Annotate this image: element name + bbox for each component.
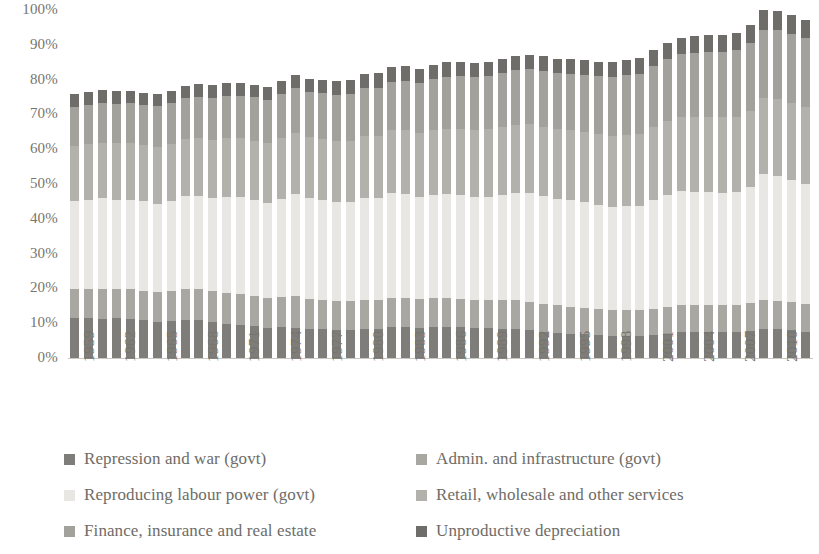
bar-segment (732, 50, 741, 116)
bar-1960 (84, 92, 93, 358)
bar-segment (635, 206, 644, 310)
bar-segment (539, 71, 548, 127)
bar-1964 (139, 93, 148, 358)
bar-1971 (236, 83, 245, 358)
bar-segment (456, 299, 465, 328)
bar-segment (360, 300, 369, 329)
x-axis-tick: 2010 (784, 330, 801, 362)
legend-swatch-icon (64, 490, 75, 501)
bar-segment (139, 320, 148, 358)
bar-segment (181, 196, 190, 289)
bar-segment (594, 309, 603, 335)
bar-1997 (594, 62, 603, 358)
bar-segment (704, 117, 713, 192)
bar-segment (250, 141, 259, 200)
y-axis-tick: 100% (22, 1, 58, 18)
bar-segment (70, 289, 79, 318)
bar-1981 (374, 73, 383, 358)
legend-item[interactable]: Reproducing labour power (govt) (64, 480, 315, 510)
y-axis-tick: 60% (30, 140, 58, 157)
bar-segment (84, 200, 93, 289)
bar-segment (525, 302, 534, 331)
bar-segment (484, 129, 493, 196)
bar-segment (387, 130, 396, 193)
x-axis-tick: 1998 (618, 330, 635, 362)
bar-2012 (801, 20, 810, 358)
bar-segment (84, 144, 93, 200)
bar-segment (346, 202, 355, 301)
bar-1975 (291, 75, 300, 358)
bar-segment (415, 197, 424, 299)
bar-segment (70, 201, 79, 289)
bar-segment (580, 60, 589, 75)
bar-segment (690, 332, 699, 358)
bar-segment (112, 91, 121, 104)
bar-segment (153, 322, 162, 358)
bar-segment (194, 196, 203, 289)
bar-segment (277, 81, 286, 94)
bar-segment (787, 34, 796, 103)
bar-segment (553, 73, 562, 129)
bar-segment (539, 304, 548, 332)
legend-item[interactable]: Repression and war (govt) (64, 444, 266, 474)
bar-segment (181, 320, 190, 358)
bar-segment (374, 136, 383, 198)
x-axis-tick: 2004 (701, 330, 718, 362)
legend-item[interactable]: Retail, wholesale and other services (416, 480, 684, 510)
bar-segment (580, 132, 589, 202)
bar-segment (580, 75, 589, 132)
bar-1974 (277, 81, 286, 358)
bar-segment (318, 329, 327, 358)
bar-segment (539, 56, 548, 71)
bar-2002 (663, 43, 672, 358)
bar-segment (456, 195, 465, 299)
bar-segment (401, 81, 410, 130)
bar-1959 (70, 94, 79, 358)
bar-segment (139, 291, 148, 321)
bar-segment (208, 198, 217, 291)
legend-item[interactable]: Unproductive depreciation (416, 516, 620, 546)
bar-1984 (415, 69, 424, 359)
bar-2009 (759, 10, 768, 358)
bar-1961 (98, 90, 107, 358)
x-axis-tick: 2007 (742, 330, 759, 362)
bar-segment (690, 36, 699, 52)
bar-2004 (690, 36, 699, 358)
bar-segment (608, 77, 617, 136)
bar-segment (126, 143, 135, 199)
bar-segment (498, 127, 507, 195)
bar-segment (525, 124, 534, 193)
bar-segment (194, 320, 203, 358)
bar-segment (277, 327, 286, 358)
bar-segment (456, 129, 465, 195)
bar-segment (291, 194, 300, 297)
bar-segment (677, 117, 686, 191)
bar-segment (456, 76, 465, 129)
bar-segment (181, 289, 190, 320)
bar-segment (332, 81, 341, 94)
legend-item[interactable]: Finance, insurance and real estate (64, 516, 316, 546)
bar-segment (732, 33, 741, 50)
bar-segment (208, 98, 217, 140)
bar-segment (263, 87, 272, 100)
bar-segment (126, 289, 135, 319)
bar-segment (126, 103, 135, 143)
bars-container (68, 10, 812, 358)
legend-item[interactable]: Admin. and infrastructure (govt) (416, 444, 661, 474)
bar-segment (222, 83, 231, 96)
bar-1962 (112, 91, 121, 358)
legend-label: Repression and war (govt) (84, 449, 266, 469)
bar-1967 (181, 86, 190, 358)
bar-1963 (126, 91, 135, 358)
bar-segment (801, 304, 810, 331)
bar-segment (194, 84, 203, 97)
bar-2008 (746, 25, 755, 358)
bar-segment (194, 138, 203, 196)
bar-segment (291, 88, 300, 133)
bar-segment (566, 74, 575, 131)
bar-segment (401, 298, 410, 327)
bar-segment (222, 324, 231, 358)
bar-segment (511, 125, 520, 193)
bar-segment (181, 139, 190, 196)
bar-segment (305, 137, 314, 198)
